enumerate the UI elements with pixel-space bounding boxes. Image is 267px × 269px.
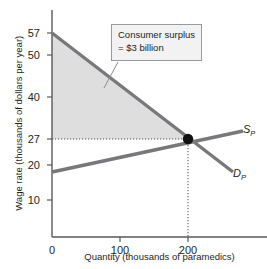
equilibrium-point-marker: [183, 134, 193, 144]
callout-line-2: = $3 billion: [118, 42, 195, 55]
callout-line-1: Consumer surplus: [118, 29, 195, 42]
x-axis-ticks: [120, 237, 188, 242]
supply-curve-label: SP: [243, 124, 255, 138]
supply-curve-subscript: P: [250, 129, 255, 138]
demand-curve-subscript: P: [241, 173, 246, 182]
demand-curve-label: DP: [233, 168, 246, 182]
y-axis-title: Wage rate (thousands of dollars per year…: [14, 51, 24, 211]
consumer-surplus-callout: Consumer surplus = $3 billion: [111, 24, 202, 61]
y-axis-ticks: [47, 33, 52, 200]
demand-curve-letter: D: [233, 167, 241, 179]
x-axis-title: Quantity (thousands of paramedics): [52, 252, 267, 262]
chart-container: 57 50 40 27 20 10 0 100 200 Wage rate (t…: [0, 0, 267, 269]
